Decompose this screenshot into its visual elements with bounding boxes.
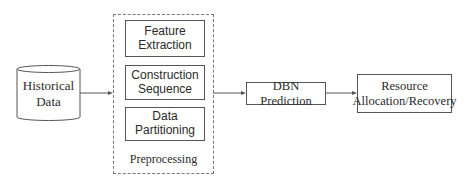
resource-label-line1: Resource <box>381 79 428 93</box>
historical-data-label-line1: Historical <box>23 78 74 94</box>
feature-extraction-line2: Extraction <box>138 39 191 53</box>
arrow-preprocessing-to-dbn <box>213 91 246 95</box>
dbn-prediction-node: DBN Prediction <box>246 82 326 105</box>
construction-sequence-line2: Sequence <box>138 83 192 97</box>
data-partitioning-line1: Data <box>152 110 177 124</box>
data-partitioning-node: Data Partitioning <box>125 107 205 141</box>
construction-sequence-line1: Construction <box>131 69 198 83</box>
dbn-prediction-label: DBN Prediction <box>247 79 325 108</box>
preprocessing-label-text: Preprocessing <box>130 152 197 167</box>
resource-label-line2: Allocation/Recovery <box>352 94 456 108</box>
data-partitioning-line2: Partitioning <box>135 124 195 138</box>
resource-allocation-node: Resource Allocation/Recovery <box>357 74 452 113</box>
historical-data-label-line2: Data <box>36 94 61 110</box>
historical-data-node: Historical Data <box>17 74 80 114</box>
preprocessing-label: Preprocessing <box>113 150 214 168</box>
arrow-source-to-preprocessing <box>80 91 113 95</box>
construction-sequence-node: Construction Sequence <box>125 65 205 100</box>
feature-extraction-node: Feature Extraction <box>125 20 205 57</box>
feature-extraction-line1: Feature <box>144 25 185 39</box>
